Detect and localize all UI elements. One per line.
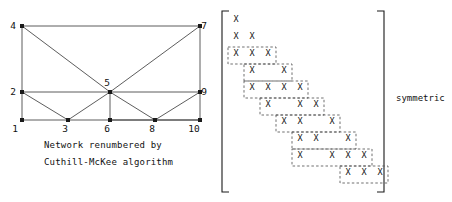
matrix-entry-r6-c6: X bbox=[308, 100, 324, 109]
matrix-entry-r10-c8: X bbox=[340, 168, 356, 177]
matrix-entry-r7-c4: X bbox=[276, 117, 292, 126]
matrix-entry-r5-c4: X bbox=[276, 83, 292, 92]
matrix-entry-r5-c5: X bbox=[292, 83, 308, 92]
matrix-entry-r9-c5: X bbox=[292, 151, 308, 160]
matrix-right-bracket bbox=[377, 11, 384, 192]
matrix-entry-r3-c2: X bbox=[244, 49, 260, 58]
matrix-entry-r1-c1: X bbox=[228, 15, 244, 24]
matrix-entry-r8-c5: X bbox=[292, 134, 308, 143]
matrix-entry-r8-c8: X bbox=[340, 134, 356, 143]
matrix-entry-r9-c8: X bbox=[340, 151, 356, 160]
matrix-entry-r7-c5: X bbox=[292, 117, 308, 126]
matrix-entry-r9-c7: X bbox=[324, 151, 340, 160]
matrix-entry-r10-c9: X bbox=[356, 168, 372, 177]
matrix-panel: XXXXXXXXXXXXXXXXXXXXXXXXXXXX bbox=[0, 0, 452, 202]
matrix-entry-r9-c9: X bbox=[356, 151, 372, 160]
symmetric-label: symmetric bbox=[396, 93, 445, 103]
matrix-entry-r3-c3: X bbox=[260, 49, 276, 58]
figure-root: 12345678910 Network renumbered by Cuthil… bbox=[0, 0, 452, 202]
matrix-entry-r2-c2: X bbox=[244, 32, 260, 41]
matrix-entry-r6-c3: X bbox=[260, 100, 276, 109]
matrix-entry-r10-c10: X bbox=[372, 168, 388, 177]
matrix-entry-r2-c1: X bbox=[228, 32, 244, 41]
matrix-entry-r5-c3: X bbox=[260, 83, 276, 92]
matrix-entry-r8-c6: X bbox=[308, 134, 324, 143]
matrix-entry-r3-c1: X bbox=[228, 49, 244, 58]
matrix-entry-r4-c2: X bbox=[244, 66, 260, 75]
matrix-entry-r5-c2: X bbox=[244, 83, 260, 92]
matrix-entry-r6-c5: X bbox=[292, 100, 308, 109]
matrix-entry-r4-c4: X bbox=[276, 66, 292, 75]
matrix-entry-r7-c7: X bbox=[324, 117, 340, 126]
